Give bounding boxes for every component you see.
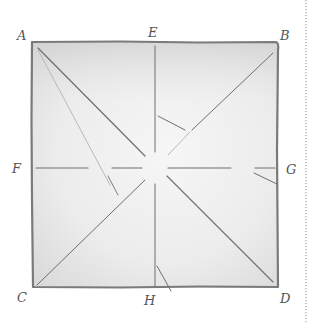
label-d: D	[279, 291, 291, 306]
label-c: C	[17, 290, 27, 305]
label-g: G	[286, 162, 296, 177]
label-a: A	[16, 28, 26, 43]
label-b: B	[279, 28, 290, 43]
label-h: H	[143, 293, 156, 308]
label-e: E	[147, 25, 158, 40]
label-f: F	[11, 161, 22, 176]
folding-square-diagram: A E B F G C H D	[0, 0, 309, 324]
